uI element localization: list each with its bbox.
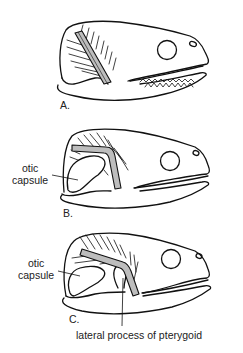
panel-b-bone-bar [72, 145, 121, 189]
panel-a-skull: A. [58, 21, 209, 111]
panel-a-lower-jaw [58, 73, 207, 101]
panel-b-label: B. [63, 207, 73, 219]
panel-a-skull-outline [60, 21, 209, 81]
panel-c-otic-label-line1: otic [28, 257, 44, 269]
panel-c-label: C. [69, 313, 80, 325]
panel-c-otic-leader-line [58, 271, 80, 276]
lateral-process-label: lateral process of pterygoid [76, 329, 202, 341]
panel-c-pterygoid-leader-line [122, 278, 123, 326]
panel-c-orbit [162, 250, 181, 269]
panel-b-skull-outline [63, 129, 209, 192]
skull-evolution-diagram: A. otic capsule B. [0, 0, 243, 353]
panel-c-nostril [195, 253, 202, 259]
panel-b-skull: otic capsule B. [12, 129, 209, 219]
panel-b-nostril [192, 150, 199, 156]
panel-c-otic-label-line2: capsule [18, 269, 54, 281]
panel-b-orbit [161, 152, 180, 171]
panel-a-label: A. [60, 99, 70, 111]
panel-b-muscle-hatching [70, 133, 128, 175]
panel-b-otic-label-line1: otic [22, 162, 38, 174]
panel-b-otic-capsule [67, 156, 105, 192]
panel-c-otic-capsule [68, 266, 104, 296]
panel-b-upper-jaw [134, 176, 208, 188]
panel-c-jaw-notch [66, 292, 125, 298]
panel-b-lower-jaw [61, 182, 209, 208]
panel-a-upper-jaw [130, 66, 203, 81]
panel-a-nostril [189, 41, 197, 48]
panel-c-skull: otic capsule C. lateral process of ptery… [18, 233, 211, 341]
panel-b-otic-label-line2: capsule [12, 174, 48, 186]
panel-b-otic-leader-line [52, 175, 78, 180]
panel-a-orbit [158, 41, 177, 60]
